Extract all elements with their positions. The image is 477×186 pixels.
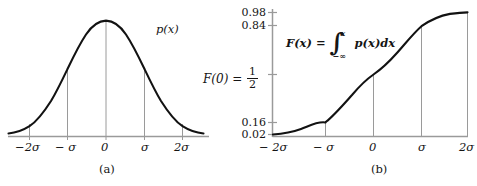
panel-a-xtick-minus-sigma: − σ: [55, 142, 76, 154]
panel-a-plot: [0, 0, 235, 186]
panel-b-ytick-label-0-02: 0.02: [235, 129, 266, 140]
panel-b: F(x) =x∫−∞p(x)dx 0.98 0.84 0.16 0.02 − 2…: [235, 0, 477, 186]
panel-a-xtick-zero: 0: [101, 142, 108, 154]
panel-b-ytick-label-0-16: 0.16: [235, 117, 266, 128]
panel-b-xtick-zero: 0: [369, 142, 376, 154]
cdf-formula-lhs: F(x) =: [286, 36, 326, 50]
panel-a-xtick-plus-2sigma: 2σ: [174, 142, 189, 154]
panel-b-xtick-minus-sigma: − σ: [313, 142, 334, 154]
panel-a-xtick-plus-sigma: σ: [141, 142, 149, 154]
panel-b-xtick-plus-sigma: σ: [418, 142, 426, 154]
panel-b-xtick-plus-2sigma: 2σ: [459, 142, 474, 154]
integral-integrand: p(x)dx: [355, 36, 396, 50]
panel-a-curve-label: p(x): [156, 24, 179, 36]
panel-a-xtick-minus-2sigma: −2σ: [15, 142, 40, 154]
panel-b-xtick-minus-2sigma: − 2σ: [259, 142, 287, 154]
panel-a-caption: (a): [99, 164, 115, 176]
panel-b-plot: [235, 0, 477, 186]
cdf-integral-formula: F(x) =x∫−∞p(x)dx: [286, 31, 395, 57]
integral-sign-group: x∫−∞: [328, 31, 354, 57]
panel-a: p(x) −2σ − σ 0 σ 2σ (a): [0, 0, 235, 186]
panel-b-caption: (b): [371, 164, 387, 176]
figure-container: p(x) −2σ − σ 0 σ 2σ (a) F(0) = 12: [0, 0, 477, 186]
panel-b-ytick-label-0-98: 0.98: [235, 7, 266, 18]
integral-lower-limit: −∞: [333, 52, 346, 60]
panel-b-ytick-label-0-84: 0.84: [235, 20, 266, 31]
